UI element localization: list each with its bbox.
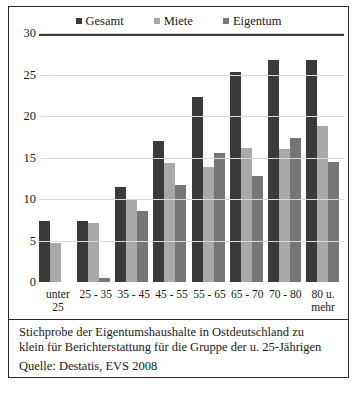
chart-source: Quelle: Destatis, EVS 2008 <box>19 359 340 374</box>
chart-legend: Gesamt Miete Eigentum <box>9 11 348 31</box>
gridline <box>39 241 344 242</box>
x-tick-label-line: 25 <box>39 301 77 314</box>
legend-swatch-eigentum <box>223 18 229 24</box>
chart-footnote: Stichprobe der Eigentumshaushalte in Ost… <box>19 325 340 355</box>
gridline <box>39 199 344 200</box>
bar-eigentum[interactable] <box>137 211 148 282</box>
y-tick-label: 20 <box>24 109 37 124</box>
notes-divider <box>9 319 348 320</box>
x-tick-label-line: 25 - 35 <box>77 288 115 301</box>
bar-miete[interactable] <box>50 243 61 282</box>
bar-miete[interactable] <box>279 149 290 282</box>
gridline <box>39 116 344 117</box>
gridline <box>39 33 344 34</box>
y-axis: 051015202530 <box>9 33 39 285</box>
x-tick-label: 80 u.mehr <box>304 286 342 318</box>
x-tick-label-line: unter <box>39 288 77 301</box>
bar-gesamt[interactable] <box>153 141 164 282</box>
y-tick-label: 15 <box>24 150 37 165</box>
legend-label-gesamt: Gesamt <box>86 15 124 28</box>
y-tick-label: 25 <box>24 67 37 82</box>
x-tick-label-line: 45 - 55 <box>153 288 191 301</box>
y-tick-label: 30 <box>24 26 37 41</box>
bar-eigentum[interactable] <box>214 153 225 282</box>
x-tick-label: 65 - 70 <box>228 286 266 318</box>
x-tick-label: unter25 <box>39 286 77 318</box>
legend-swatch-miete <box>154 18 160 24</box>
bar-gesamt[interactable] <box>306 60 317 282</box>
plot-area: 051015202530 <box>9 33 350 285</box>
bar-miete[interactable] <box>88 223 99 282</box>
legend-item-miete[interactable]: Miete <box>154 15 193 28</box>
bar-eigentum[interactable] <box>252 176 263 282</box>
grid-and-bars <box>39 33 344 285</box>
bar-miete[interactable] <box>164 163 175 282</box>
y-tick-label: 0 <box>30 275 36 290</box>
bar-gesamt[interactable] <box>230 72 241 282</box>
gridline <box>39 158 344 159</box>
x-tick-label: 35 - 45 <box>115 286 153 318</box>
y-tick-label: 10 <box>24 192 37 207</box>
x-tick-label-line: mehr <box>304 301 342 314</box>
bar-gesamt[interactable] <box>39 221 50 282</box>
x-tick-label-line: 80 u. <box>304 288 342 301</box>
footnote-line-2: klein für Berichterstattung für die Grup… <box>19 340 340 355</box>
bar-gesamt[interactable] <box>268 60 279 282</box>
x-tick-label: 25 - 35 <box>77 286 115 318</box>
gridline <box>39 75 344 76</box>
bar-eigentum[interactable] <box>99 278 110 282</box>
bar-miete[interactable] <box>203 167 214 282</box>
x-tick-label-line: 65 - 70 <box>228 288 266 301</box>
legend-label-eigentum: Eigentum <box>233 15 282 28</box>
bar-miete[interactable] <box>241 148 252 282</box>
x-tick-label-line: 55 - 65 <box>191 288 229 301</box>
legend-item-gesamt[interactable]: Gesamt <box>76 15 124 28</box>
legend-swatch-gesamt <box>76 18 82 24</box>
bar-miete[interactable] <box>317 126 328 282</box>
x-tick-label-line: 70 - 80 <box>266 288 304 301</box>
bar-gesamt[interactable] <box>192 97 203 282</box>
legend-label-miete: Miete <box>164 15 193 28</box>
footnote-line-1: Stichprobe der Eigentumshaushalte in Ost… <box>19 325 340 340</box>
x-tick-label: 70 - 80 <box>266 286 304 318</box>
bar-gesamt[interactable] <box>115 187 126 282</box>
y-tick-label: 5 <box>30 233 36 248</box>
bar-eigentum[interactable] <box>290 138 301 282</box>
chart-frame: Gesamt Miete Eigentum 051015202530 unter… <box>8 6 349 378</box>
bar-gesamt[interactable] <box>77 221 88 282</box>
legend-item-eigentum[interactable]: Eigentum <box>223 15 282 28</box>
x-axis-labels: unter2525 - 3535 - 4545 - 5555 - 6565 - … <box>39 286 342 318</box>
bar-eigentum[interactable] <box>328 162 339 282</box>
x-tick-label: 55 - 65 <box>191 286 229 318</box>
x-tick-label-line: 35 - 45 <box>115 288 153 301</box>
x-tick-label: 45 - 55 <box>153 286 191 318</box>
